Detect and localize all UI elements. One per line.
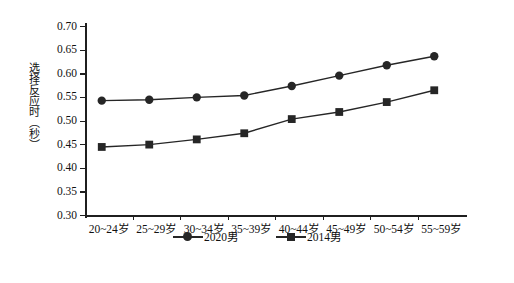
- legend-square-icon: [276, 231, 306, 243]
- legend-item-2014男[interactable]: 2014男: [276, 230, 341, 244]
- data-point-circle: [240, 91, 248, 99]
- data-point-square: [288, 115, 296, 123]
- chart-figure: 选择反应时（秒） 0.700.650.600.550.500.450.400.3…: [0, 0, 514, 283]
- y-axis-tick-label: 0.50: [57, 113, 77, 127]
- y-axis-tick-label: 0.55: [57, 89, 77, 103]
- y-axis-tick-label: 0.65: [57, 42, 77, 56]
- x-axis-tick: [180, 215, 181, 220]
- legend-item-label: 2020男: [204, 230, 238, 244]
- x-axis-tick: [133, 215, 134, 220]
- y-axis-tick-label: 0.70: [57, 19, 77, 33]
- y-axis-tick-label: 0.60: [57, 66, 77, 80]
- data-point-circle: [145, 96, 153, 104]
- data-point-circle: [98, 96, 106, 104]
- y-axis-tick-label: 0.35: [57, 184, 77, 198]
- series-layer: [85, 26, 465, 215]
- data-point-square: [430, 86, 438, 94]
- y-axis-tick-label: 0.40: [57, 160, 77, 174]
- data-point-square: [335, 108, 343, 116]
- legend-circle-icon: [173, 231, 203, 243]
- y-axis-tick-label: 0.30: [57, 208, 77, 222]
- y-axis-tick-label: 0.45: [57, 137, 77, 151]
- data-point-circle: [430, 52, 438, 60]
- y-axis-title: 选择反应时（秒）: [18, 62, 40, 150]
- data-point-square: [240, 129, 248, 137]
- x-axis-tick: [370, 215, 371, 220]
- plot-area: 0.700.650.600.550.500.450.400.350.30 20~…: [85, 26, 465, 215]
- data-point-square: [145, 141, 153, 149]
- legend-item-label: 2014男: [307, 230, 341, 244]
- x-axis-tick: [418, 215, 419, 220]
- legend-item-2020男[interactable]: 2020男: [173, 230, 238, 244]
- data-point-square: [383, 98, 391, 106]
- data-point-square: [193, 136, 201, 144]
- data-point-circle: [288, 82, 296, 90]
- x-axis-tick: [323, 215, 324, 220]
- data-point-circle: [383, 61, 391, 69]
- chart-legend: 2020男2014男: [0, 230, 514, 244]
- data-point-square: [98, 143, 106, 151]
- x-axis-tick: [275, 215, 276, 220]
- x-axis-tick: [228, 215, 229, 220]
- data-point-circle: [193, 93, 201, 101]
- y-axis-tick: 0.30: [80, 215, 85, 216]
- data-point-circle: [335, 71, 343, 79]
